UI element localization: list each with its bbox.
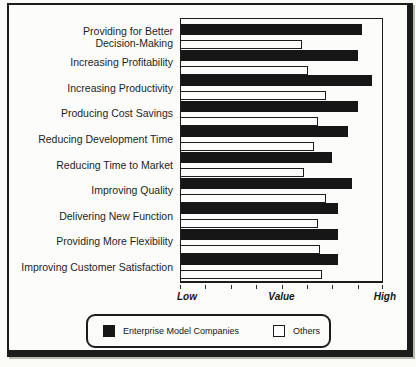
bar-enterprise-model [181, 229, 338, 240]
axis-tick [180, 285, 181, 289]
figure-page: { "figure": { "background": "#fbfbf8", "… [0, 0, 416, 367]
bar-others [181, 245, 320, 254]
category-labels: Providing for BetterDecision-MakingIncre… [11, 18, 173, 283]
legend-label-others: Others [293, 326, 320, 336]
bar-enterprise-model [181, 152, 332, 163]
bar-others [181, 219, 318, 228]
bar-enterprise-model [181, 126, 348, 137]
chart-area: Providing for BetterDecision-MakingIncre… [9, 5, 407, 350]
category-label: Producing Cost Savings [61, 107, 173, 119]
category-label: Reducing Development Time [38, 133, 173, 145]
bar-others [181, 91, 326, 100]
bar-others [181, 270, 322, 279]
legend-swatch-white-icon [273, 325, 285, 337]
axis-tick [205, 285, 206, 289]
axis-tick [282, 285, 283, 289]
axis-tick [256, 285, 257, 289]
bar-others [181, 40, 302, 49]
category-label: Improving Customer Satisfaction [21, 261, 173, 273]
legend-item-enterprise: Enterprise Model Companies [103, 325, 239, 337]
legend-label-enterprise: Enterprise Model Companies [123, 326, 239, 336]
axis-tick [382, 285, 383, 289]
axis-label-high: High [374, 291, 396, 302]
legend-swatch-black-icon [103, 325, 115, 337]
axis-tick [307, 285, 308, 289]
bar-others [181, 194, 326, 203]
category-label: Increasing Profitability [70, 56, 173, 68]
bar-enterprise-model [181, 203, 338, 214]
category-label: Providing More Flexibility [56, 235, 173, 247]
chart-frame: Providing for BetterDecision-MakingIncre… [7, 3, 413, 357]
x-axis-ticks [180, 285, 383, 290]
axis-label-value: Value [268, 291, 294, 302]
bar-enterprise-model [181, 24, 362, 35]
category-label: Providing for BetterDecision-Making [83, 25, 173, 49]
bar-enterprise-model [181, 75, 372, 86]
x-axis-labels: Low Value High [180, 291, 383, 305]
plot-area [180, 18, 383, 283]
bar-others [181, 142, 314, 151]
category-label: Reducing Time to Market [56, 159, 173, 171]
bar-others [181, 117, 318, 126]
axis-tick [231, 285, 232, 289]
legend-item-others: Others [273, 325, 320, 337]
category-label: Improving Quality [91, 184, 173, 196]
axis-label-low: Low [177, 291, 197, 302]
axis-tick [358, 285, 359, 289]
bar-enterprise-model [181, 101, 358, 112]
bar-enterprise-model [181, 254, 338, 265]
bar-enterprise-model [181, 50, 358, 61]
axis-tick [332, 285, 333, 289]
category-label: Delivering New Function [59, 210, 173, 222]
legend: Enterprise Model Companies Others [86, 314, 331, 348]
bar-others [181, 66, 308, 75]
bar-others [181, 168, 304, 177]
category-label: Increasing Productivity [67, 82, 173, 94]
bar-enterprise-model [181, 178, 352, 189]
